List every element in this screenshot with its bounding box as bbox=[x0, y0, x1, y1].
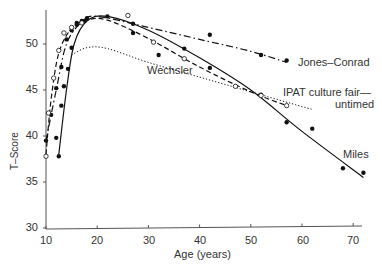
data-point bbox=[54, 86, 58, 90]
series-line-0 bbox=[46, 16, 287, 140]
data-point bbox=[57, 154, 61, 158]
axes bbox=[46, 10, 362, 229]
label-ipat-line2: untimed bbox=[335, 98, 374, 110]
data-point bbox=[208, 33, 212, 37]
x-axis-label: Age (years) bbox=[174, 248, 231, 260]
data-point bbox=[284, 120, 288, 124]
data-point bbox=[66, 67, 70, 71]
x-tick-label: 50 bbox=[241, 234, 261, 246]
data-point bbox=[259, 53, 263, 57]
data-point bbox=[259, 93, 263, 97]
x-tick-label: 70 bbox=[343, 234, 363, 246]
data-point bbox=[75, 22, 79, 26]
data-point bbox=[64, 37, 68, 41]
data-point bbox=[208, 66, 212, 70]
data-point bbox=[310, 126, 314, 130]
data-point bbox=[69, 25, 73, 29]
x-tick-label: 20 bbox=[87, 234, 107, 246]
x-tick-label: 10 bbox=[36, 234, 56, 246]
data-point bbox=[62, 84, 66, 88]
label-wechsler: Wechsler bbox=[147, 64, 193, 76]
x-tick-label: 40 bbox=[190, 234, 210, 246]
y-tick-label: 50 bbox=[10, 37, 38, 49]
data-point bbox=[57, 48, 61, 52]
data-point bbox=[341, 166, 345, 170]
data-point bbox=[151, 40, 155, 44]
label-ipat-line1: IPAT culture fair— bbox=[283, 86, 371, 98]
data-point bbox=[284, 58, 288, 62]
y-tick-label: 35 bbox=[10, 175, 38, 187]
data-point bbox=[233, 84, 237, 88]
axis-ticks bbox=[43, 44, 353, 229]
data-point bbox=[51, 76, 55, 80]
y-tick-label: 45 bbox=[10, 83, 38, 95]
data-point bbox=[59, 103, 63, 107]
data-point bbox=[80, 21, 84, 25]
data-point bbox=[44, 154, 48, 158]
data-point bbox=[182, 57, 186, 61]
data-point bbox=[126, 13, 130, 17]
data-point bbox=[361, 171, 365, 175]
data-point bbox=[105, 14, 109, 18]
data-point bbox=[284, 103, 288, 107]
data-point bbox=[182, 46, 186, 50]
label-miles: Miles bbox=[343, 148, 369, 160]
chart-canvas bbox=[0, 0, 382, 267]
y-axis-label: T–Score bbox=[9, 132, 20, 170]
data-point bbox=[44, 138, 48, 142]
data-point bbox=[69, 45, 73, 49]
data-point bbox=[62, 31, 66, 35]
data-point bbox=[131, 22, 135, 26]
x-tick-label: 60 bbox=[293, 234, 313, 246]
data-point bbox=[54, 136, 58, 140]
y-tick-label: 30 bbox=[10, 221, 38, 233]
data-point bbox=[59, 65, 63, 69]
series-line-2 bbox=[72, 47, 313, 110]
data-point bbox=[46, 111, 50, 115]
label-jones-conrad: Jones–Conrad bbox=[298, 56, 370, 68]
data-point bbox=[156, 53, 160, 57]
data-point bbox=[131, 31, 135, 35]
x-tick-label: 30 bbox=[139, 234, 159, 246]
x-axis bbox=[46, 226, 362, 229]
